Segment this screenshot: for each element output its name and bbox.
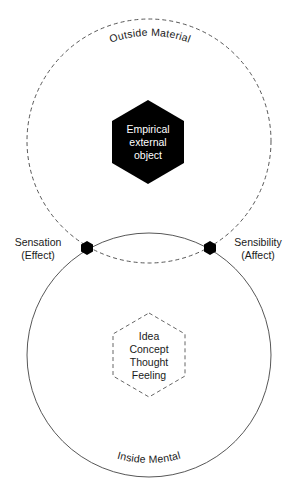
inside-mental-circle bbox=[27, 233, 271, 477]
empirical-line-3: object bbox=[134, 149, 162, 161]
sensibility-node-icon bbox=[204, 241, 216, 255]
outside-material-label: Outside Material bbox=[108, 26, 193, 45]
empirical-line-1: Empirical bbox=[126, 123, 169, 135]
sensibility-label: Sensibility bbox=[234, 236, 282, 248]
affect-label: (Affect) bbox=[241, 249, 275, 261]
idea-hexagon-icon bbox=[113, 313, 185, 397]
diagram-canvas: Outside Material Inside Mental Empirical… bbox=[0, 0, 299, 492]
effect-label: (Effect) bbox=[21, 249, 55, 261]
sensation-label: Sensation bbox=[15, 236, 62, 248]
idea-line-2: Concept bbox=[129, 343, 168, 355]
idea-line-1: Idea bbox=[139, 330, 160, 342]
idea-line-4: Feeling bbox=[132, 369, 167, 381]
inside-mental-label: Inside Mental bbox=[116, 449, 181, 465]
empirical-line-2: external bbox=[129, 136, 166, 148]
idea-line-3: Thought bbox=[130, 356, 169, 368]
